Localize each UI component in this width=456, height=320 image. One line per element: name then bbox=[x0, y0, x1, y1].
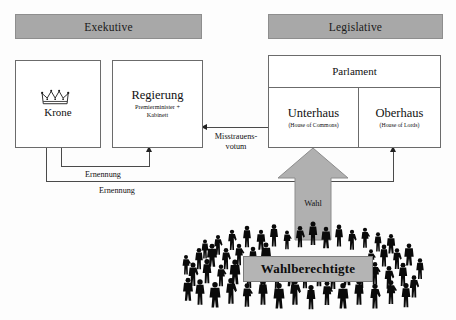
connector-ernennung-regierung-vertical bbox=[149, 148, 150, 167]
header-legislative: Legislative bbox=[268, 14, 443, 39]
connector-krone-down-right bbox=[61, 148, 62, 167]
connector-krone-down-left bbox=[46, 148, 47, 182]
box-krone-label: Krone bbox=[44, 107, 72, 119]
box-regierung-sub-line1: Premierminister + bbox=[135, 103, 180, 111]
connector-misstrauensvotum bbox=[203, 127, 269, 128]
label-misstrauensvotum-line1: Misstrauens- bbox=[205, 132, 267, 142]
box-regierung: Regierung Premierminister + Kabinett bbox=[112, 60, 203, 148]
connector-ernennung-oberhaus-vertical bbox=[393, 148, 394, 182]
banner-wahlberechtigte-label: Wahlberechtigte bbox=[261, 261, 355, 277]
header-executive-label: Exekutive bbox=[84, 21, 132, 33]
label-ernennung-oberhaus: Ernennung bbox=[80, 186, 154, 196]
banner-wahlberechtigte: Wahlberechtigte bbox=[243, 256, 373, 282]
box-regierung-sub-line2: Kabinett bbox=[147, 111, 168, 119]
label-ernennung-regierung: Ernennung bbox=[66, 170, 140, 180]
box-unterhaus-label: Unterhaus bbox=[288, 107, 339, 120]
arrowheads-layer bbox=[0, 0, 456, 320]
wahl-arrow-layer bbox=[0, 0, 456, 320]
box-oberhaus-sub: (House of Lords) bbox=[380, 122, 420, 129]
label-misstrauensvotum-line2: votum bbox=[205, 142, 267, 152]
crown-icon bbox=[41, 89, 75, 106]
wahl-block-arrow bbox=[278, 148, 348, 240]
connector-ernennung-oberhaus-horizontal bbox=[46, 181, 394, 182]
parlament-chambers: Unterhaus (House of Commons) Oberhaus (H… bbox=[269, 88, 440, 148]
diagram-canvas: Exekutive Legislative bbox=[0, 0, 456, 320]
box-oberhaus-label: Oberhaus bbox=[376, 107, 424, 120]
header-legislative-label: Legislative bbox=[329, 21, 382, 33]
label-wahl: Wahl bbox=[293, 198, 333, 208]
connector-ernennung-regierung-horizontal bbox=[61, 166, 150, 167]
header-executive: Exekutive bbox=[15, 14, 202, 39]
box-parlament-header: Parlament bbox=[269, 56, 440, 88]
label-misstrauensvotum: Misstrauens- votum bbox=[205, 132, 267, 151]
box-unterhaus: Unterhaus (House of Commons) bbox=[269, 88, 359, 148]
box-parlament: Parlament Unterhaus (House of Commons) O… bbox=[268, 55, 441, 148]
box-unterhaus-sub: (House of Commons) bbox=[288, 122, 338, 129]
box-oberhaus: Oberhaus (House of Lords) bbox=[359, 88, 440, 148]
box-krone: Krone bbox=[15, 60, 101, 148]
box-parlament-label: Parlament bbox=[332, 66, 377, 78]
crowd-silhouettes bbox=[0, 0, 456, 320]
box-regierung-label: Regierung bbox=[131, 89, 183, 102]
